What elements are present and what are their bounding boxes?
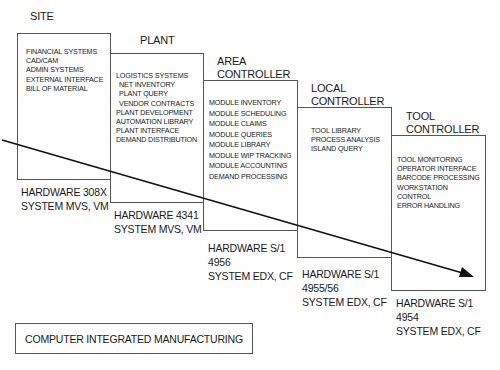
site-title: SITE xyxy=(30,10,54,23)
cim-legend-box: COMPUTER INTEGRATED MANUFACTURING xyxy=(15,323,253,354)
site-hardware: HARDWARE 308X SYSTEM MVS, VM xyxy=(21,185,109,213)
plant-items: LOGISTICS SYSTEMS NET INVENTORY PLANT QU… xyxy=(116,71,197,145)
site-items: FINANCIAL SYSTEMS CAD/CAM ADMIN SYSTEMS … xyxy=(26,47,103,93)
cim-legend-label: COMPUTER INTEGRATED MANUFACTURING xyxy=(25,333,243,345)
plant-hardware: HARDWARE 4341 SYSTEM MVS, VM xyxy=(114,208,202,236)
plant-title: PLANT xyxy=(140,34,174,47)
tool-controller-items: TOOL MONITORING OPERATOR INTERFACE BARCO… xyxy=(397,155,480,210)
area-controller-hardware: HARDWARE S/1 4956 SYSTEM EDX, CF xyxy=(208,241,293,283)
area-controller-title: AREA CONTROLLER xyxy=(217,55,290,81)
local-controller-items: TOOL LIBRARY PROCESS ANALYSIS ISLAND QUE… xyxy=(311,126,380,154)
tool-controller-hardware: HARDWARE S/1 4954 SYSTEM EDX, CF xyxy=(396,296,481,338)
local-controller-title: LOCAL CONTROLLER xyxy=(311,82,384,108)
tool-controller-title: TOOL CONTROLLER xyxy=(406,110,479,136)
local-controller-hardware: HARDWARE S/1 4955/56 SYSTEM EDX, CF xyxy=(302,267,387,309)
area-controller-items: MODULE INVENTORY MODULE SCHEDULING MODUL… xyxy=(209,98,291,182)
